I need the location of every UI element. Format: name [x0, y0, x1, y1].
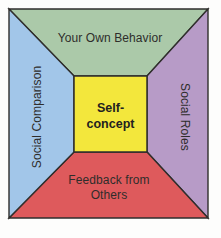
label-social-roles: Social Roles: [178, 83, 192, 151]
label-social-comparison: Social Comparison: [30, 66, 44, 168]
self-concept-diagram: Your Own Behavior Social Comparison Soci…: [0, 0, 221, 238]
label-your-own-behavior: Your Own Behavior: [58, 31, 163, 45]
label-self-concept-line1: Self-: [97, 101, 124, 115]
diagram-canvas: Your Own Behavior Social Comparison Soci…: [0, 0, 221, 238]
label-self-concept-line2: concept: [87, 117, 136, 131]
label-feedback-line2: Others: [91, 188, 128, 202]
label-feedback-line1: Feedback from: [68, 173, 149, 187]
